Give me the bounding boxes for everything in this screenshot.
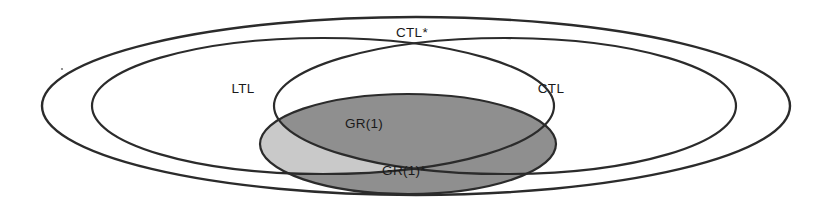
label-ctl-star: CTL*	[396, 25, 428, 40]
label-gr1-star: GR(1)*	[382, 163, 426, 178]
label-ctl: CTL	[538, 81, 565, 96]
venn-diagram-container: CTL* LTL CTL GR(1) GR(1)*	[0, 0, 826, 209]
venn-diagram-svg: CTL* LTL CTL GR(1) GR(1)*	[0, 0, 826, 209]
label-gr1: GR(1)	[345, 116, 383, 131]
scan-speck-artifact	[61, 68, 63, 70]
label-ltl: LTL	[231, 81, 254, 96]
